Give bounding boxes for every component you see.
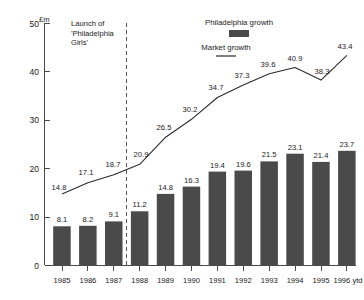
line-value-1989: 26.5	[157, 123, 172, 132]
line-value-1985: 14.8	[52, 183, 67, 192]
bar-value-1987: 9.1	[109, 210, 120, 219]
growth-chart: £m 50 40 30 20 10 0	[0, 0, 364, 300]
line-value-1993: 39.6	[261, 60, 276, 69]
bar-value-1992: 19.6	[236, 160, 251, 169]
bar-value-1985: 8.1	[57, 215, 68, 224]
x-tick-label-1988: 1988	[131, 276, 148, 285]
y-tick-label-40: 40	[30, 67, 40, 77]
x-tick-label-1989: 1989	[157, 276, 174, 285]
bar-value-1989: 14.8	[158, 183, 173, 192]
bar-1995	[312, 162, 330, 266]
bar-1993	[260, 161, 278, 265]
bar-1986	[79, 226, 97, 266]
bar-value-1995: 21.4	[314, 151, 329, 160]
x-tick-label-1991: 1991	[209, 276, 226, 285]
legend-label-philadelphia-growth: Philadelphia growth	[205, 18, 273, 27]
bar-1994	[286, 154, 304, 266]
bar-1989	[157, 194, 175, 266]
bar-value-1991: 19.4	[210, 161, 225, 170]
market-growth-line	[62, 55, 347, 194]
y-axis-ticks	[45, 24, 50, 266]
x-tick-label-1987: 1987	[105, 276, 122, 285]
bar-value-1990: 16.3	[184, 176, 199, 185]
bar-1987	[105, 221, 123, 265]
legend-swatch-philadelphia-growth	[229, 30, 249, 37]
bar-1988	[131, 211, 149, 265]
bar-1996-ytd	[338, 151, 356, 266]
x-tick-label-1990: 1990	[183, 276, 200, 285]
y-axis-unit-label: £m	[39, 15, 50, 24]
legend-label-market-growth: Market growth	[201, 43, 250, 52]
y-tick-label-20: 20	[30, 164, 40, 174]
line-value-1990: 30.2	[183, 105, 198, 114]
x-tick-label-1996-ytd: 1996 ytd	[333, 276, 362, 285]
x-tick-label-1994: 1994	[287, 276, 304, 285]
line-value-1986: 17.1	[79, 168, 94, 177]
line-value-1992: 37.3	[235, 71, 250, 80]
x-tick-label-1992: 1992	[235, 276, 252, 285]
line-value-1996-ytd: 43.4	[338, 42, 353, 51]
launch-annotation-line-1: Launch of	[71, 19, 105, 28]
bar-value-1996-ytd: 23.7	[340, 140, 355, 149]
x-tick-label-1995: 1995	[313, 276, 330, 285]
line-value-1991: 34.7	[209, 83, 224, 92]
line-value-1994: 40.9	[288, 54, 303, 63]
line-value-1988: 20.9	[134, 150, 149, 159]
bar-1991	[209, 172, 227, 266]
bar-value-1986: 8.2	[83, 215, 94, 224]
bar-1985	[53, 226, 70, 265]
bar-value-1988: 11.2	[133, 200, 147, 209]
launch-annotation-line-2: 'Philadelphia	[71, 29, 115, 38]
chart-legend: Philadelphia growth Market growth	[201, 18, 273, 56]
x-axis-ticks	[62, 266, 347, 271]
y-tick-label-10: 10	[30, 212, 40, 222]
x-tick-label-1985: 1985	[54, 276, 71, 285]
y-tick-label-50: 50	[30, 19, 40, 29]
bar-value-1994: 23.1	[288, 143, 303, 152]
x-tick-label-1986: 1986	[79, 276, 96, 285]
y-tick-label-30: 30	[30, 115, 40, 125]
bar-value-1993: 21.5	[262, 150, 277, 159]
line-value-1987: 18.7	[106, 160, 121, 169]
chart-container: £m 50 40 30 20 10 0	[0, 0, 364, 300]
launch-annotation-line-3: Girls'	[71, 38, 89, 47]
bar-series	[53, 151, 355, 266]
y-tick-label-0: 0	[34, 261, 39, 271]
bar-1992	[235, 171, 253, 266]
line-value-1995: 38.3	[315, 67, 330, 76]
x-tick-label-1993: 1993	[261, 276, 278, 285]
bar-1990	[183, 187, 201, 266]
